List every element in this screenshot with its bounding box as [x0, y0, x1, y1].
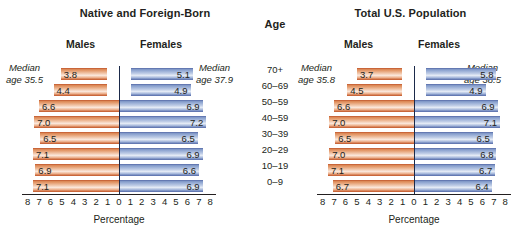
- male-bar: 7.0: [329, 148, 414, 160]
- x-axis-tick: 1: [397, 196, 408, 207]
- males-label-right: Males: [344, 38, 373, 50]
- male-bar-value: 3.7: [360, 69, 373, 81]
- baseline-left: [22, 194, 216, 195]
- female-bar: 6.9: [119, 180, 203, 192]
- female-bar-cell: 6.9: [119, 180, 216, 192]
- male-bar-cell: 7.1: [317, 164, 414, 176]
- female-bar-cell: 7.2: [119, 116, 216, 128]
- x-axis-ticks-right: 87654321012345678: [317, 196, 511, 207]
- x-axis-tick: 7: [193, 196, 204, 207]
- male-bar: 7.1: [328, 164, 414, 176]
- plot-area-left: 3.85.14.44.96.66.97.07.26.56.57.16.96.96…: [22, 66, 216, 194]
- male-bar-value: 7.1: [36, 149, 49, 161]
- female-bar-cell: 4.9: [414, 84, 511, 96]
- males-label-left: Males: [66, 38, 95, 50]
- x-axis-title-left: Percentage: [22, 214, 216, 225]
- female-bar-value: 7.1: [484, 117, 497, 129]
- female-bar-cell: 6.8: [414, 148, 511, 160]
- x-axis-tick: 4: [454, 196, 465, 207]
- female-bar-cell: 4.9: [119, 84, 216, 96]
- age-group-label: 10–19: [253, 158, 297, 174]
- male-bar-cell: 7.1: [22, 148, 119, 160]
- male-bar: 6.6: [334, 100, 414, 112]
- x-axis-tick: 8: [500, 196, 511, 207]
- baseline-right: [317, 194, 511, 195]
- male-bar-cell: 7.0: [22, 116, 119, 128]
- age-column-header: Age: [253, 18, 297, 30]
- x-axis-tick: 4: [363, 196, 374, 207]
- female-bar: 6.9: [119, 100, 203, 112]
- male-bar-cell: 4.5: [317, 84, 414, 96]
- female-bar: 5.8: [426, 68, 496, 80]
- male-bar-cell: 3.8: [22, 68, 119, 80]
- male-bar: 4.5: [347, 84, 402, 96]
- male-bar: 6.9: [35, 164, 119, 176]
- male-bar-value: 6.6: [337, 101, 350, 113]
- male-bar: 7.1: [33, 148, 119, 160]
- x-axis-tick: 4: [159, 196, 170, 207]
- x-axis-tick: 5: [465, 196, 476, 207]
- male-bar-value: 3.8: [64, 69, 77, 81]
- x-axis-tick: 3: [79, 196, 90, 207]
- male-bar: 3.7: [357, 68, 402, 80]
- x-axis-tick: 2: [90, 196, 101, 207]
- male-bar-cell: 6.9: [22, 164, 119, 176]
- center-axis-right: [414, 66, 415, 194]
- female-bar: 6.5: [119, 132, 198, 144]
- female-bar-value: 4.9: [469, 85, 482, 97]
- male-bar: 7.0: [34, 116, 119, 128]
- male-bar-value: 6.6: [42, 101, 55, 113]
- age-group-label: 20–29: [253, 142, 297, 158]
- female-bar-value: 6.7: [479, 165, 492, 177]
- female-bar-cell: 6.9: [119, 148, 216, 160]
- x-axis-tick: 3: [147, 196, 158, 207]
- female-bar-value: 6.9: [186, 149, 199, 161]
- male-bar: 6.7: [333, 180, 414, 192]
- male-bar-value: 4.4: [57, 85, 70, 97]
- female-bar: 7.2: [119, 116, 206, 128]
- male-bar-value: 6.5: [43, 133, 56, 145]
- center-axis-left: [119, 66, 120, 194]
- male-bar-value: 6.9: [38, 165, 51, 177]
- female-bar: 7.1: [414, 116, 500, 128]
- age-group-label: 60–69: [253, 78, 297, 94]
- male-bar: 7.0: [329, 116, 414, 128]
- male-bar-cell: 7.1: [22, 180, 119, 192]
- male-bar-value: 7.0: [332, 117, 345, 129]
- male-bar-value: 4.5: [350, 85, 363, 97]
- female-bar-cell: 6.9: [119, 100, 216, 112]
- male-bar-value: 7.1: [331, 165, 344, 177]
- age-group-label: 30–39: [253, 126, 297, 142]
- female-bar-cell: 5.1: [119, 68, 216, 80]
- male-bar: 6.5: [40, 132, 119, 144]
- x-axis-tick: 5: [351, 196, 362, 207]
- female-bar-value: 6.6: [183, 165, 196, 177]
- x-axis-ticks-left: 87654321012345678: [22, 196, 216, 207]
- male-bar-cell: 6.6: [317, 100, 414, 112]
- male-bar-value: 7.0: [37, 117, 50, 129]
- male-bar: 7.1: [33, 180, 119, 192]
- panel-title-right: Total U.S. Population: [296, 7, 529, 19]
- x-axis-tick: 6: [477, 196, 488, 207]
- male-bar-cell: 6.6: [22, 100, 119, 112]
- population-pyramid-figure: Native and Foreign-Born Males Females Me…: [0, 0, 529, 240]
- female-bar: 4.9: [131, 84, 190, 96]
- x-axis-tick: 1: [125, 196, 136, 207]
- x-axis-tick: 7: [33, 196, 44, 207]
- female-bar: 6.9: [119, 148, 203, 160]
- male-bar-cell: 6.7: [317, 180, 414, 192]
- male-bar-value: 7.1: [36, 181, 49, 193]
- x-axis-tick: 6: [340, 196, 351, 207]
- male-bar-cell: 6.5: [22, 132, 119, 144]
- male-bar-value: 6.5: [338, 133, 351, 145]
- male-bar: 6.5: [335, 132, 414, 144]
- plot-area-right: 3.75.84.54.96.66.97.07.16.56.57.06.87.16…: [317, 66, 511, 194]
- female-bar: 5.1: [131, 68, 193, 80]
- female-bar: 4.9: [426, 84, 485, 96]
- x-axis-tick: 6: [45, 196, 56, 207]
- x-axis-title-right: Percentage: [317, 214, 511, 225]
- age-group-label: 50–59: [253, 94, 297, 110]
- female-bar: 6.4: [414, 180, 492, 192]
- x-axis-tick: 5: [56, 196, 67, 207]
- female-bar-value: 6.5: [182, 133, 195, 145]
